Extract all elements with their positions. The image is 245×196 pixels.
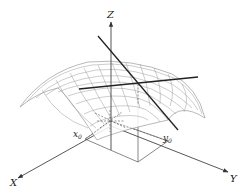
x0-label: x0	[73, 129, 82, 140]
x-axis-label: X	[9, 177, 18, 188]
z-axis-label: Z	[106, 9, 115, 20]
surface-diagram: Z X Y x0 y0	[0, 0, 245, 196]
y-axis-label: Y	[230, 173, 238, 184]
y0-label: y0	[162, 133, 172, 144]
y-axis	[111, 126, 228, 172]
